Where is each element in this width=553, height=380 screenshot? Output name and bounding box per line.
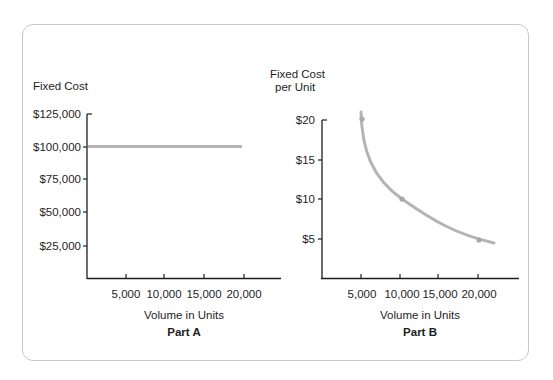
part-b-x-tick: 20,000	[461, 288, 496, 300]
part-b-caption: Part B	[403, 326, 437, 338]
part-b-x-tick: 15,000	[422, 288, 457, 300]
data-point-marker	[476, 237, 481, 242]
part-a-x-tick: 15,000	[186, 288, 221, 300]
part-a-x-axis-label: Volume in Units	[144, 309, 224, 321]
part-b-y-axis-label-2: per Unit	[275, 81, 316, 93]
part-a-x-tick: 20,000	[226, 288, 261, 300]
data-point-marker	[359, 116, 364, 121]
part-a-y-axis-label: Fixed Cost	[33, 80, 89, 92]
part-b-x-axis-label: Volume in Units	[380, 309, 460, 321]
part-b-x-tick: 10,000	[384, 288, 419, 300]
part-a-caption: Part A	[167, 326, 200, 338]
part-b-y-tick: $10	[296, 193, 315, 205]
chart-part-b: Fixed Cost per Unit $20 $15 $10 $5 5,000…	[270, 68, 519, 338]
chart-part-a: Fixed Cost $125,000 $100,000 $75,000 $50…	[33, 80, 281, 338]
part-b-y-tick: $15	[296, 154, 315, 166]
part-b-per-unit-cost-curve	[361, 112, 494, 243]
data-point-marker	[399, 196, 404, 201]
part-a-x-tick: 10,000	[146, 288, 181, 300]
part-b-x-tick: 5,000	[348, 288, 377, 300]
part-b-y-tick: $5	[302, 233, 315, 245]
part-b-y-tick: $20	[296, 114, 315, 126]
chart-canvas: Fixed Cost $125,000 $100,000 $75,000 $50…	[0, 0, 553, 380]
part-a-x-tick: 5,000	[112, 288, 141, 300]
part-a-y-tick: $75,000	[39, 173, 81, 185]
part-a-y-tick: $25,000	[39, 240, 81, 252]
part-a-y-tick: $100,000	[33, 141, 81, 153]
part-a-y-tick: $125,000	[33, 108, 81, 120]
part-b-y-axis-label: Fixed Cost	[270, 68, 326, 80]
part-a-y-tick: $50,000	[39, 206, 81, 218]
